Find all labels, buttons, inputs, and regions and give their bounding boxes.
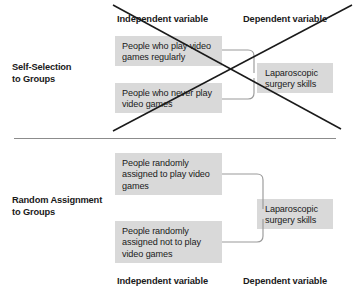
top-group-box-non-players: People who never play video games (115, 83, 222, 113)
bottom-outcome-box-laparoscopic-skills: Laparoscopic surgery skills (257, 199, 333, 229)
section-title-random-assignment-line2: to Groups (12, 207, 55, 219)
top-outcome-box-laparoscopic-skills: Laparoscopic surgery skills (257, 63, 333, 93)
top-connector-lower (222, 78, 254, 99)
section-title-self-selection-line2: to Groups (12, 74, 55, 86)
top-group-box-players: People who play video games regularly (115, 36, 222, 66)
bottom-group-box-assigned-not-to-play: People randomly assigned not to play vid… (115, 221, 222, 263)
top-connector-upper (222, 50, 254, 73)
section-title-self-selection-line1: Self-Selection (12, 62, 71, 74)
top-header-independent-variable: Independent variable (117, 14, 208, 25)
section-title-random-assignment-line1: Random Assignment (12, 195, 102, 207)
bottom-footer-dependent-variable: Dependent variable (243, 276, 327, 287)
top-header-dependent-variable: Dependent variable (243, 14, 327, 25)
study-design-diagram: Independent variable Dependent variable … (0, 0, 353, 297)
bottom-group-box-assigned-to-play: People randomly assigned to play video g… (115, 153, 222, 195)
bottom-footer-independent-variable: Independent variable (117, 276, 208, 287)
